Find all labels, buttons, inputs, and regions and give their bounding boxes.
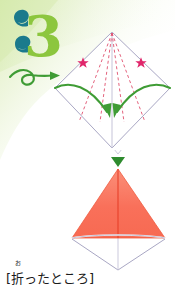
origami-diamond-with-fold-guides <box>52 26 175 154</box>
down-triangle-marker <box>111 157 125 167</box>
caption: [お折ったところ] <box>6 268 94 287</box>
caption-kanji: 折 <box>11 271 24 286</box>
folded-result-kite <box>62 150 175 275</box>
caption-furigana: お <box>15 260 21 266</box>
caption-ruby-group: お折 <box>11 268 24 287</box>
diamond-outline <box>55 32 170 148</box>
origami-instruction-step-panel: 3 <box>0 0 175 300</box>
caption-close-bracket: ] <box>89 271 94 286</box>
caption-rest: ったところ <box>24 271 89 286</box>
folded-red-triangle <box>72 169 165 238</box>
previous-step-tail <box>102 150 134 154</box>
